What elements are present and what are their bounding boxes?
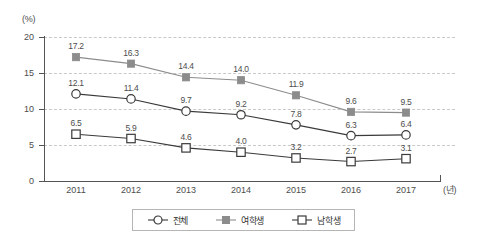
data-point-marker xyxy=(237,77,244,84)
data-point-marker xyxy=(402,154,410,162)
data-point-marker xyxy=(237,111,245,119)
data-point-label: 3.1 xyxy=(401,143,412,153)
data-point-marker xyxy=(402,109,409,116)
data-point-label: 9.5 xyxy=(401,97,412,107)
data-point-marker xyxy=(182,107,190,115)
data-point-marker xyxy=(72,90,80,98)
chart-legend[interactable]: 전체여학생남학생 xyxy=(132,209,355,231)
legend-item-1[interactable]: 전체 xyxy=(147,214,188,227)
data-point-marker xyxy=(292,92,299,99)
data-point-marker xyxy=(127,60,134,67)
data-point-marker xyxy=(347,131,355,139)
legend-label: 전체 xyxy=(173,214,188,227)
legend-marker-icon xyxy=(147,214,169,226)
data-point-marker xyxy=(182,74,189,81)
data-point-label: 5.9 xyxy=(126,123,137,133)
data-point-label: 6.4 xyxy=(401,119,412,129)
data-point-marker xyxy=(72,130,80,138)
line-chart: (%) (년) 05101520 20112012201320142015201… xyxy=(0,0,477,239)
data-point-label: 16.3 xyxy=(123,48,138,58)
legend-marker-icon xyxy=(291,214,313,226)
legend-label: 남학생 xyxy=(317,214,340,227)
legend-item-3[interactable]: 남학생 xyxy=(291,214,340,227)
legend-item-2[interactable]: 여학생 xyxy=(215,214,264,227)
data-point-marker xyxy=(237,148,245,156)
data-point-marker xyxy=(292,154,300,162)
data-point-label: 4.0 xyxy=(236,136,247,146)
data-point-marker xyxy=(402,131,410,139)
data-point-label: 9.6 xyxy=(346,96,357,106)
data-point-label: 14.4 xyxy=(178,61,193,71)
data-point-marker xyxy=(292,121,300,129)
data-point-label: 3.2 xyxy=(291,142,302,152)
legend-label: 여학생 xyxy=(241,214,264,227)
data-point-label: 12.1 xyxy=(68,78,83,88)
data-point-marker xyxy=(347,108,354,115)
data-point-label: 11.9 xyxy=(289,79,304,89)
data-point-marker xyxy=(127,134,135,142)
data-point-marker xyxy=(127,95,135,103)
data-point-label: 14.0 xyxy=(233,64,248,74)
data-point-label: 6.5 xyxy=(71,118,82,128)
data-point-marker xyxy=(347,157,355,165)
data-point-label: 7.8 xyxy=(291,109,302,119)
legend-marker-icon xyxy=(215,214,237,226)
data-point-marker xyxy=(72,54,79,61)
data-point-marker xyxy=(182,144,190,152)
data-point-label: 9.2 xyxy=(236,99,247,109)
data-point-label: 6.3 xyxy=(346,120,357,130)
data-point-label: 17.2 xyxy=(68,41,83,51)
data-point-label: 2.7 xyxy=(346,146,357,156)
data-point-label: 11.4 xyxy=(124,83,139,93)
data-point-label: 9.7 xyxy=(181,95,192,105)
series-1 xyxy=(72,90,410,140)
data-point-label: 4.6 xyxy=(181,132,192,142)
